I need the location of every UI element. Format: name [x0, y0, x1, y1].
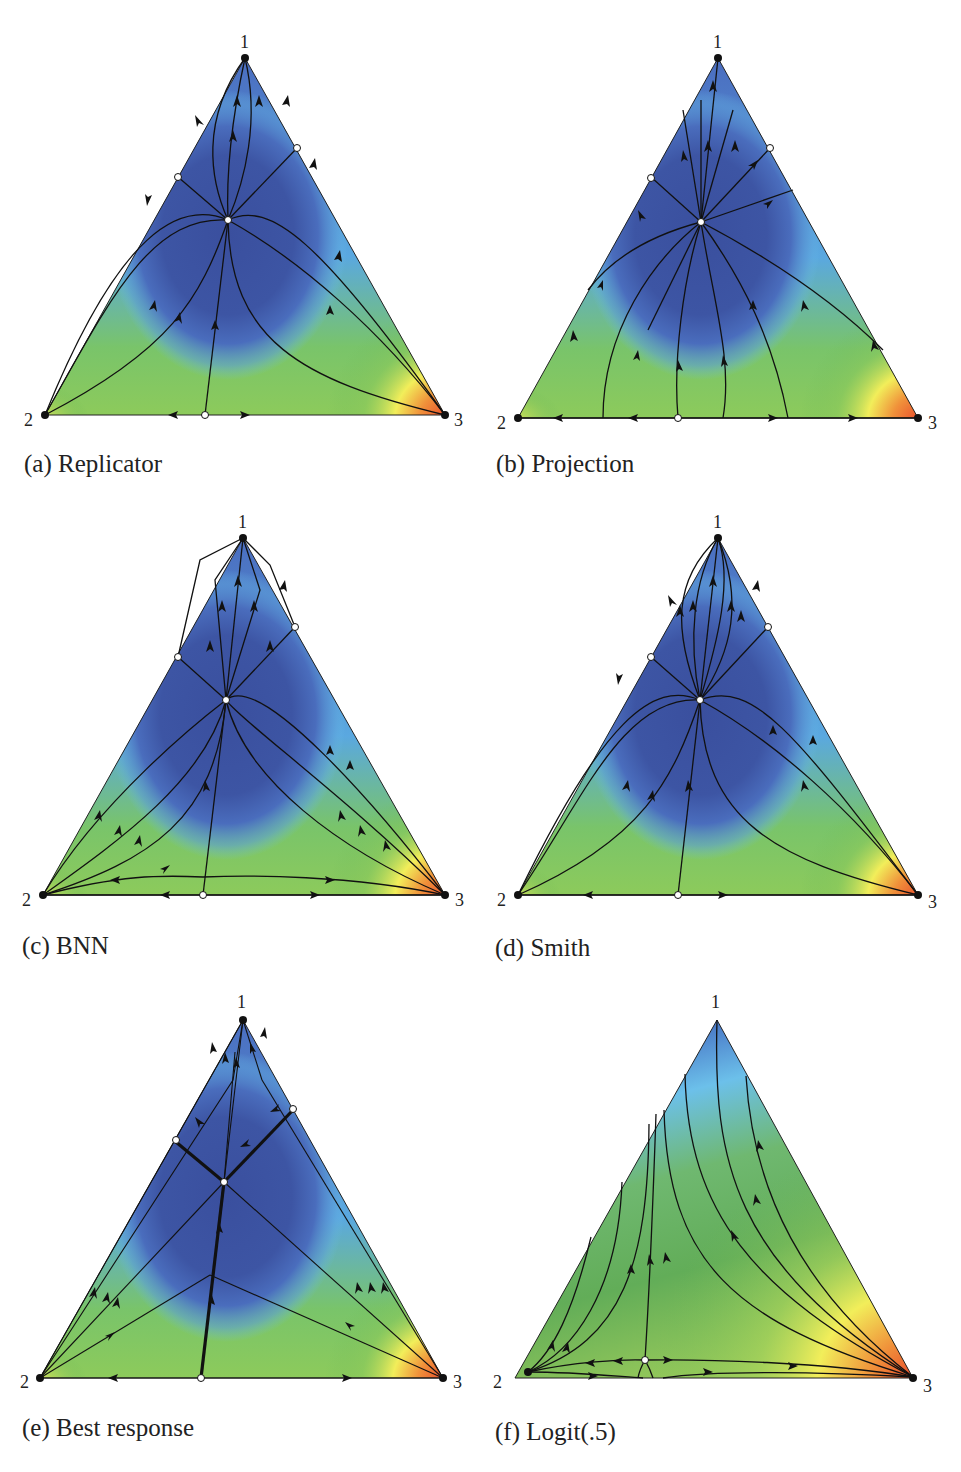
edge-rest-point — [292, 624, 299, 631]
vertex-label-1: 1 — [238, 512, 247, 533]
ternary-plot-smith — [473, 480, 961, 970]
vertex-point-3 — [914, 891, 922, 899]
vertex-point-3 — [439, 1374, 447, 1382]
vertex-point-1 — [714, 54, 722, 62]
panel-replicator: 1 2 3 (a) Replicator — [0, 0, 480, 490]
unstable-rest-point — [642, 1357, 649, 1364]
vertex-label-2: 2 — [22, 890, 31, 911]
vertex-label-3: 3 — [454, 410, 463, 431]
vertex-label-2: 2 — [20, 1372, 29, 1393]
vertex-label-1: 1 — [240, 32, 249, 53]
edge-rest-point — [173, 1137, 180, 1144]
interior-rest-point — [223, 697, 230, 704]
vertex-label-1: 1 — [713, 512, 722, 533]
edge-rest-point — [175, 174, 182, 181]
vertex-point-1 — [239, 1016, 247, 1024]
stable-rest-point — [524, 1368, 532, 1376]
edge-rest-point — [290, 1106, 297, 1113]
vertex-label-1: 1 — [237, 992, 246, 1013]
vertex-point-3 — [914, 414, 922, 422]
panel-best-response: 1 2 3 (e) Best response — [0, 962, 480, 1472]
panel-caption: (a) Replicator — [24, 450, 162, 478]
edge-rest-point — [648, 175, 655, 182]
interior-rest-point — [221, 1179, 228, 1186]
vertex-point-2 — [39, 891, 47, 899]
vertex-point-2 — [36, 1374, 44, 1382]
vertex-label-3: 3 — [455, 890, 464, 911]
edge-rest-point — [675, 892, 682, 899]
panel-caption: (e) Best response — [22, 1414, 194, 1442]
ternary-plot-bnn — [0, 480, 480, 970]
edge-rest-point — [648, 654, 655, 661]
vertex-label-3: 3 — [923, 1376, 932, 1397]
vertex-label-1: 1 — [711, 992, 720, 1013]
vertex-label-2: 2 — [493, 1372, 502, 1393]
vertex-point-3 — [441, 411, 449, 419]
edge-rest-point — [200, 892, 207, 899]
vertex-point-1 — [714, 534, 722, 542]
edge-rest-point — [294, 145, 301, 152]
vertex-point-2 — [514, 891, 522, 899]
ternary-plot-projection — [473, 0, 961, 490]
edge-rest-point — [202, 412, 209, 419]
panel-caption: (c) BNN — [22, 932, 109, 960]
vertex-label-3: 3 — [453, 1372, 462, 1393]
interior-rest-point — [225, 217, 232, 224]
stable-rest-point — [909, 1374, 917, 1382]
panel-logit: 1 2 3 (f) Logit(.5) — [473, 962, 961, 1472]
edge-rest-point — [675, 415, 682, 422]
panel-caption: (b) Projection — [496, 450, 634, 478]
panel-caption: (d) Smith — [495, 934, 590, 962]
vertex-label-3: 3 — [928, 892, 937, 913]
interior-rest-point — [698, 219, 705, 226]
vertex-point-1 — [241, 54, 249, 62]
panel-bnn: 1 2 3 (c) BNN — [0, 480, 480, 970]
edge-rest-point — [767, 145, 774, 152]
panel-smith: 1 2 3 (d) Smith — [473, 480, 961, 970]
vertex-point-3 — [441, 891, 449, 899]
vertex-point-1 — [239, 534, 247, 542]
vertex-point-2 — [41, 411, 49, 419]
ternary-plot-replicator — [0, 0, 480, 490]
vertex-label-2: 2 — [497, 890, 506, 911]
edge-rest-point — [198, 1375, 205, 1382]
vertex-label-2: 2 — [24, 410, 33, 431]
panel-caption: (f) Logit(.5) — [495, 1418, 616, 1446]
vertex-label-2: 2 — [497, 413, 506, 434]
vertex-label-3: 3 — [928, 413, 937, 434]
edge-rest-point — [175, 654, 182, 661]
panel-projection: 1 2 3 (b) Projection — [473, 0, 961, 490]
interior-rest-point — [697, 697, 704, 704]
edge-rest-point — [765, 624, 772, 631]
vertex-label-1: 1 — [713, 32, 722, 53]
vertex-point-2 — [514, 414, 522, 422]
ternary-plot-best-response — [0, 962, 480, 1462]
ternary-plot-logit — [473, 962, 961, 1462]
